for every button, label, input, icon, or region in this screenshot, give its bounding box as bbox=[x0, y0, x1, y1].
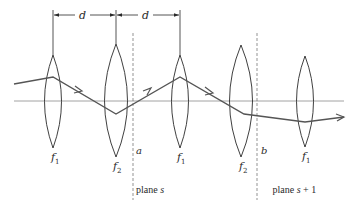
spacing-label-2: d bbox=[142, 9, 149, 22]
plane-a-name-label: plane s bbox=[136, 184, 164, 195]
lens-5-label: f 1 bbox=[301, 150, 310, 165]
lens-1-label: f 1 bbox=[50, 151, 59, 166]
lens-5-f1 bbox=[297, 56, 314, 147]
svg-text:2: 2 bbox=[117, 167, 121, 175]
lens-2-label: f 2 bbox=[112, 160, 121, 175]
spacing-dimension bbox=[53, 10, 180, 55]
svg-text:2: 2 bbox=[243, 167, 247, 175]
ray-path bbox=[14, 77, 344, 122]
lens-1-f1 bbox=[45, 55, 62, 148]
lens-3-label: f 1 bbox=[176, 151, 185, 166]
svg-text:1: 1 bbox=[55, 158, 59, 166]
lens-2-f2 bbox=[105, 44, 128, 157]
arrow-icon bbox=[205, 87, 213, 95]
spacing-label-1: d bbox=[79, 9, 86, 22]
svg-text:1: 1 bbox=[181, 158, 185, 166]
svg-text:1: 1 bbox=[306, 157, 310, 165]
plane-b-point-label: b bbox=[261, 145, 267, 156]
ray-arrow-icons bbox=[74, 86, 344, 121]
lens-3-f1 bbox=[172, 55, 189, 148]
lens-4-label: f 2 bbox=[238, 160, 247, 175]
plane-b-name-label: plane s + 1 bbox=[260, 184, 324, 195]
lens-waveguide-diagram: d d f 1 f 2 f 1 f 2 f 1 a b plane s bbox=[0, 0, 356, 208]
plane-a-point-label: a bbox=[136, 145, 142, 156]
